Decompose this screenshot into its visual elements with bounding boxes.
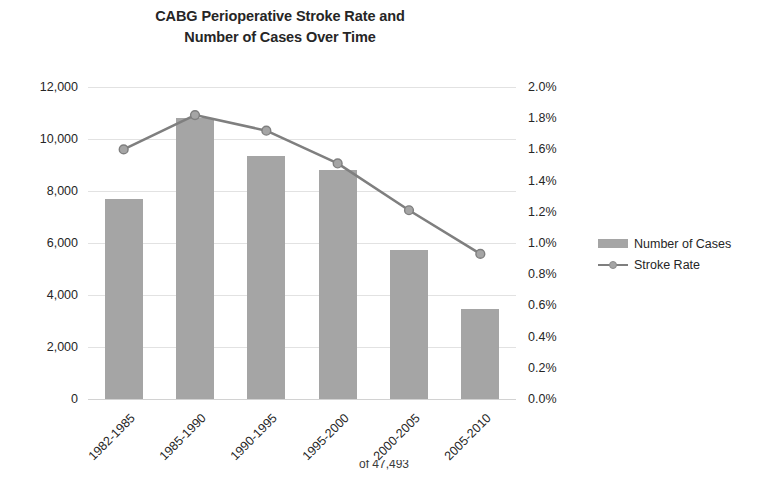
line-swatch-icon	[598, 259, 628, 270]
legend-item-number-of-cases: Number of Cases	[598, 233, 763, 254]
legend-label-number-of-cases: Number of Cases	[634, 237, 731, 251]
bar-swatch-icon	[598, 239, 628, 248]
chart-legend: Number of Cases Stroke Rate	[598, 233, 763, 275]
legend-item-stroke-rate: Stroke Rate	[598, 254, 763, 275]
legend-label-stroke-rate: Stroke Rate	[634, 258, 700, 272]
figure-caption: of 47,493	[0, 460, 768, 477]
figure-caption-text: of 47,493	[0, 460, 768, 471]
